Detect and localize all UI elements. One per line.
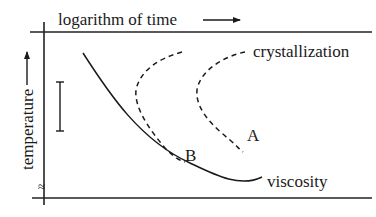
x-axis-label: logarithm of time	[58, 10, 177, 29]
point-a-label: A	[247, 126, 260, 145]
axis-break-icon: ≈	[38, 179, 45, 194]
point-b-label: B	[185, 146, 196, 165]
range-bar-icon	[56, 82, 64, 131]
viscosity-label: viscosity	[267, 172, 328, 191]
y-axis-label: temperature	[18, 89, 37, 170]
viscosity-curve-tail	[83, 53, 262, 178]
time-temperature-diagram: logarithm of time temperature ≈ crystall…	[0, 0, 376, 217]
crystallization-curve-a	[197, 52, 245, 152]
crystallization-label: crystallization	[253, 42, 350, 61]
viscosity-curve	[83, 53, 262, 181]
